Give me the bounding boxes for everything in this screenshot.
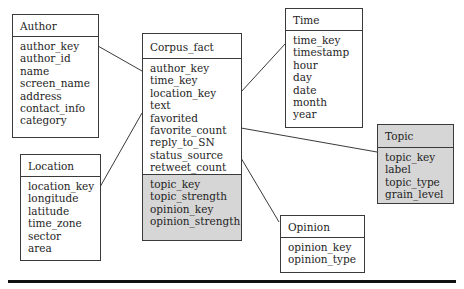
entity-attributes: author_key author_id name screen_name ad… bbox=[13, 37, 98, 127]
attribute: text bbox=[150, 99, 241, 111]
attribute: month bbox=[293, 96, 362, 108]
bottom-rule-divider bbox=[8, 280, 456, 283]
attribute: time_key bbox=[150, 74, 241, 86]
entity-title: Opinion bbox=[281, 216, 364, 238]
attribute: author_key bbox=[20, 40, 98, 52]
attribute: time_zone bbox=[28, 217, 100, 229]
attribute: day bbox=[293, 71, 362, 83]
shaded-measures-section: topic_key topic_strength opinion_key opi… bbox=[143, 174, 241, 240]
attribute: author_id bbox=[20, 52, 98, 64]
author-to-fact-line bbox=[98, 46, 142, 71]
topic-entity: Topic topic_key label topic_type grain_l… bbox=[377, 124, 454, 204]
attribute: screen_name bbox=[20, 77, 98, 89]
entity-title: Time bbox=[286, 9, 362, 31]
attribute: opinion_type bbox=[288, 253, 364, 265]
attribute: location_key bbox=[150, 87, 241, 99]
entity-title: Author bbox=[13, 15, 98, 37]
entity-attributes: location_key longitude latitude time_zon… bbox=[21, 177, 100, 254]
attribute: category bbox=[20, 114, 98, 126]
location-entity: Location location_key longitude latitude… bbox=[20, 154, 101, 261]
attribute: latitude bbox=[28, 205, 100, 217]
opinion-to-fact-line bbox=[241, 158, 279, 222]
attribute: topic_key bbox=[150, 178, 241, 190]
location-to-fact-line bbox=[100, 113, 142, 187]
entity-attributes: time_key timestamp hour day date month y… bbox=[286, 31, 362, 121]
attribute: favorite_count bbox=[150, 124, 241, 136]
attribute: address bbox=[20, 90, 98, 102]
attribute: topic_type bbox=[385, 176, 453, 188]
attribute: topic_strength bbox=[150, 190, 241, 202]
attribute: location_key bbox=[28, 180, 100, 192]
attribute: retweet_count bbox=[150, 161, 241, 173]
attribute: topic_key bbox=[385, 151, 453, 163]
entity-attributes: topic_key label topic_type grain_level bbox=[378, 148, 453, 201]
attribute: sector bbox=[28, 230, 100, 242]
attribute: area bbox=[28, 242, 100, 254]
attribute: year bbox=[293, 108, 362, 120]
opinion-entity: Opinion opinion_key opinion_type bbox=[280, 215, 365, 273]
attribute: opinion_key bbox=[288, 241, 364, 253]
attribute: favorited bbox=[150, 112, 241, 124]
entity-attributes: opinion_key opinion_type bbox=[281, 238, 364, 266]
attribute: opinion_strength bbox=[150, 215, 241, 227]
attribute: hour bbox=[293, 59, 362, 71]
entity-title: Corpus_fact bbox=[143, 34, 241, 59]
attribute: time_key bbox=[293, 34, 362, 46]
attribute: name bbox=[20, 65, 98, 77]
attribute: author_key bbox=[150, 62, 241, 74]
attribute: contact_info bbox=[20, 102, 98, 114]
attribute: grain_level bbox=[385, 188, 453, 200]
attribute: date bbox=[293, 84, 362, 96]
time-entity: Time time_key timestamp hour day date mo… bbox=[285, 8, 363, 128]
entity-attributes: author_key time_key location_key text fa… bbox=[143, 59, 241, 174]
author-entity: Author author_key author_id name screen_… bbox=[12, 14, 99, 138]
attribute: reply_to_SN bbox=[150, 136, 241, 148]
time-to-fact-line bbox=[241, 44, 285, 92]
corpus-fact-entity: Corpus_fact author_key time_key location… bbox=[142, 33, 242, 241]
entity-title: Location bbox=[21, 155, 100, 177]
attribute: longitude bbox=[28, 192, 100, 204]
entity-title: Topic bbox=[378, 125, 453, 148]
attribute: timestamp bbox=[293, 46, 362, 58]
attribute: status_source bbox=[150, 149, 241, 161]
attribute: label bbox=[385, 163, 453, 175]
topic-to-fact-line bbox=[241, 128, 377, 152]
attribute: opinion_key bbox=[150, 203, 241, 215]
